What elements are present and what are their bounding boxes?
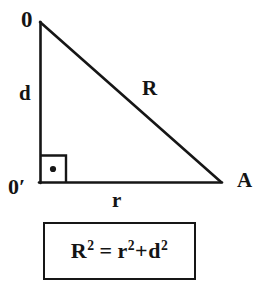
formula-lhs-exponent: 2 bbox=[87, 238, 94, 253]
vertex-label-a: A bbox=[237, 170, 252, 191]
formula-term2-base: d bbox=[148, 238, 161, 263]
formula-term2-exponent: 2 bbox=[161, 238, 168, 253]
side-label-R-hypotenuse: R bbox=[142, 78, 157, 99]
figure-root: 0 0′ A d R r R2=r2+d2 bbox=[0, 0, 272, 295]
formula-box: R2=r2+d2 bbox=[43, 222, 196, 280]
formula-plus: + bbox=[135, 238, 148, 263]
formula-term1-exponent: 2 bbox=[128, 238, 135, 253]
vertex-label-o: 0 bbox=[21, 8, 33, 31]
vertex-label-o-prime: 0′ bbox=[8, 176, 25, 198]
formula-inner: R2=r2+d2 bbox=[45, 224, 194, 278]
side-label-d: d bbox=[19, 83, 31, 104]
formula-equals: = bbox=[99, 238, 112, 263]
formula-term1-base: r bbox=[118, 238, 128, 263]
pythagorean-formula: R2=r2+d2 bbox=[71, 238, 168, 264]
formula-lhs-base: R bbox=[71, 238, 87, 263]
right-angle-dot-icon bbox=[50, 166, 56, 172]
side-label-r-base: r bbox=[112, 190, 121, 211]
